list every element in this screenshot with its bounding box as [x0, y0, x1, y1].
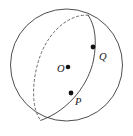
sphere-diagram-canvas	[0, 0, 133, 136]
sphere-outline	[11, 9, 123, 121]
sphere-diagram: O P Q	[0, 0, 133, 136]
point-Q-label: Q	[99, 52, 107, 63]
point-O-dot	[66, 65, 71, 70]
point-P-dot	[69, 91, 74, 96]
point-P-label: P	[75, 97, 81, 108]
point-Q-dot	[91, 45, 96, 50]
point-O-label: O	[57, 64, 65, 75]
